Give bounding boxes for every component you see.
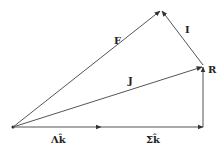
vector-f <box>13 11 160 127</box>
vector-diagram: F J I R Λk̂ Σk̂ <box>0 0 224 154</box>
label-sigma-k: Σk̂ <box>146 133 161 145</box>
label-i: I <box>185 24 190 35</box>
label-lambda-k: Λk̂ <box>50 133 67 145</box>
label-r: R <box>208 64 217 75</box>
label-f: F <box>114 35 121 46</box>
label-j: J <box>127 75 133 86</box>
vector-j <box>13 67 202 127</box>
vector-i <box>162 11 203 65</box>
